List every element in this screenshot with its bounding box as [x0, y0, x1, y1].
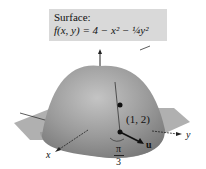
y-axis-label: y	[186, 129, 190, 140]
point-label: (1, 2)	[126, 113, 150, 125]
z-axis-arrow-icon	[98, 49, 102, 54]
angle-numerator: π	[116, 143, 121, 154]
y-axis-arrow-icon	[176, 132, 182, 136]
surface-diagram	[0, 0, 206, 169]
angle-denominator: 3	[116, 156, 121, 167]
vector-label: u	[146, 139, 152, 150]
x-axis-label: x	[46, 149, 50, 160]
surface-point	[118, 103, 123, 108]
